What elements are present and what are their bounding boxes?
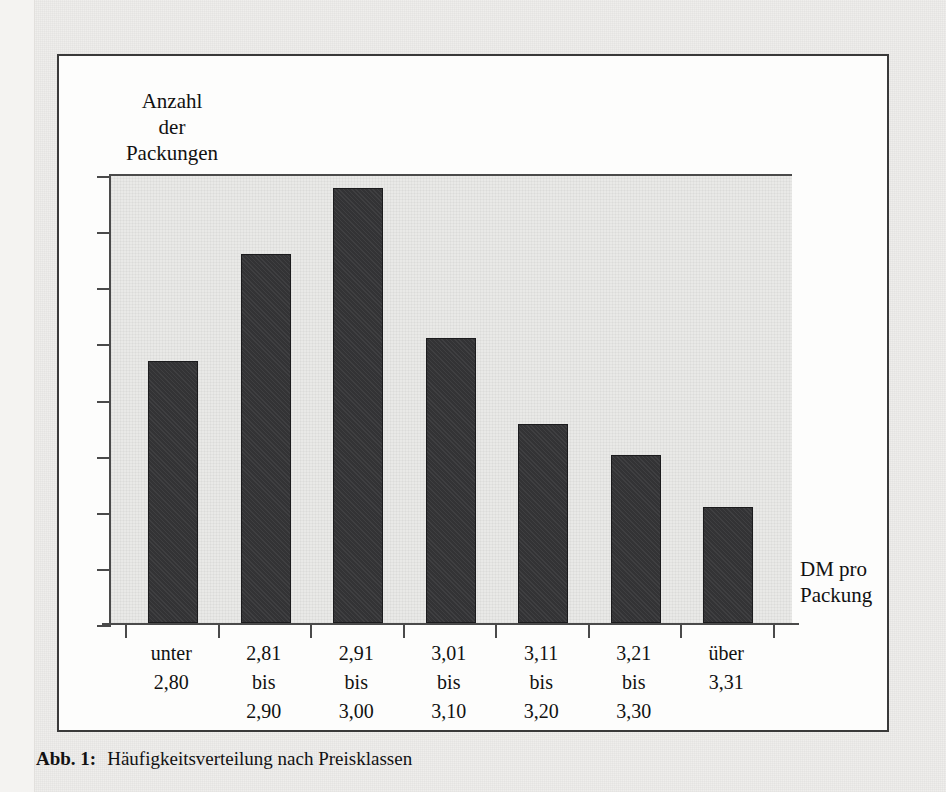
bar bbox=[703, 507, 753, 623]
y-axis-title: Anzahl der Packungen bbox=[97, 88, 247, 166]
x-axis-title-line-1: DM pro bbox=[800, 556, 930, 582]
x-axis-tick bbox=[403, 625, 405, 638]
bar bbox=[426, 338, 476, 623]
x-axis-line bbox=[102, 623, 799, 625]
x-axis-tick bbox=[310, 625, 312, 638]
x-axis-tick bbox=[495, 625, 497, 638]
page-background: Anzahl der Packungen DM pro Packung unte… bbox=[0, 0, 946, 792]
y-axis-tick bbox=[97, 513, 111, 515]
figure-caption-text: Häufigkeitsverteilung nach Preisklassen bbox=[107, 748, 412, 769]
y-axis-tick bbox=[97, 232, 111, 234]
x-axis-label: über3,31 bbox=[670, 639, 783, 726]
y-axis-title-line-2: der bbox=[97, 114, 247, 140]
bar bbox=[333, 188, 383, 623]
x-axis-label-line bbox=[670, 697, 783, 726]
x-axis-title-line-2: Packung bbox=[800, 582, 930, 608]
y-axis-tick bbox=[97, 569, 111, 571]
figure-caption-label: Abb. 1: bbox=[36, 748, 96, 769]
y-axis-tick bbox=[97, 625, 111, 627]
bar bbox=[241, 254, 291, 623]
bar bbox=[611, 455, 661, 623]
x-axis-title: DM pro Packung bbox=[800, 556, 930, 608]
x-axis-label-line: über bbox=[670, 639, 783, 668]
y-axis-title-line-3: Packungen bbox=[97, 140, 247, 166]
bar bbox=[148, 361, 198, 623]
x-axis-tick bbox=[588, 625, 590, 638]
bar bbox=[518, 424, 568, 623]
x-axis-tick bbox=[125, 625, 127, 638]
x-axis-tick bbox=[680, 625, 682, 638]
y-axis-title-line-1: Anzahl bbox=[97, 88, 247, 114]
y-axis-tick bbox=[97, 288, 111, 290]
y-axis-tick bbox=[97, 344, 111, 346]
figure-caption: Abb. 1:Häufigkeitsverteilung nach Preisk… bbox=[36, 748, 412, 770]
plot-area bbox=[109, 174, 792, 623]
figure-panel: Anzahl der Packungen DM pro Packung unte… bbox=[57, 54, 889, 732]
x-axis-tick bbox=[773, 625, 775, 638]
x-axis-tick bbox=[218, 625, 220, 638]
x-axis-label-line: 3,31 bbox=[670, 668, 783, 697]
y-axis-tick bbox=[97, 457, 111, 459]
page-left-gutter bbox=[0, 0, 35, 792]
y-axis-tick bbox=[97, 176, 111, 178]
y-axis-tick bbox=[97, 401, 111, 403]
